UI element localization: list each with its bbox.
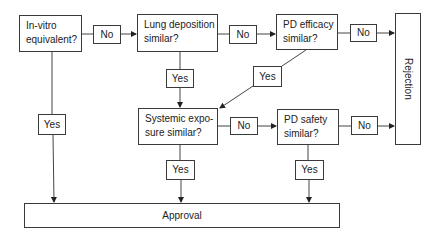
edge-label-text: No xyxy=(237,28,250,42)
edge-label-yes-systemic-to-approval: Yes xyxy=(166,160,195,180)
decision-text-line: PD efficacy xyxy=(283,18,337,32)
edge-label-text: Yes xyxy=(44,118,60,132)
decision-text-line: PD safety xyxy=(284,113,338,127)
decision-text-line: equivalent? xyxy=(26,33,81,47)
edge-label-no-pdefficacy-to-rejection: No xyxy=(350,24,377,42)
edge-label-no-systemic-to-pdsafety: No xyxy=(230,117,258,135)
decision-text-line: sure similar? xyxy=(145,126,217,140)
edge-label-text: No xyxy=(358,119,371,133)
decision-text-line: similar? xyxy=(283,32,337,46)
decision-pd-efficacy-similar: PD efficacy similar? xyxy=(276,14,338,50)
decision-in-vitro-equivalent: In-vitro equivalent? xyxy=(19,15,82,52)
decision-text-line: Lung deposition xyxy=(144,18,217,32)
decision-systemic-exposure-similar: Systemic expo- sure similar? xyxy=(138,108,218,145)
outcome-approval-label: Approval xyxy=(162,209,201,223)
edge-label-no-lung-to-pdefficacy: No xyxy=(229,25,257,44)
edge-label-text: No xyxy=(101,28,114,42)
outcome-rejection-label: Rejection xyxy=(401,58,415,100)
edge-label-text: No xyxy=(357,26,370,40)
edge-label-yes-invitro-to-approval: Yes xyxy=(38,114,66,135)
decision-lung-deposition-similar: Lung deposition similar? xyxy=(137,14,218,52)
edge-label-no-invitro-to-lung: No xyxy=(93,25,121,44)
edge-label-text: No xyxy=(238,119,251,133)
decision-text-line: Systemic expo- xyxy=(145,112,217,126)
edge-label-text: Yes xyxy=(172,72,188,86)
decision-text-line: similar? xyxy=(284,127,338,141)
edge-label-yes-pdsafety-to-approval: Yes xyxy=(295,160,324,180)
decision-text-line: In-vitro xyxy=(26,19,81,33)
outcome-rejection: Rejection xyxy=(395,13,421,145)
edge-label-text: Yes xyxy=(259,70,275,84)
outcome-approval: Approval xyxy=(24,203,340,228)
edge-label-text: Yes xyxy=(301,163,317,177)
edge-label-yes-pdefficacy-to-systemic: Yes xyxy=(253,66,282,87)
decision-pd-safety-similar: PD safety similar? xyxy=(277,109,339,145)
edge-label-yes-lung-to-systemic: Yes xyxy=(166,69,194,88)
decision-text-line: similar? xyxy=(144,32,217,46)
edge-label-no-pdsafety-to-rejection: No xyxy=(351,116,378,135)
edge-label-text: Yes xyxy=(172,163,188,177)
